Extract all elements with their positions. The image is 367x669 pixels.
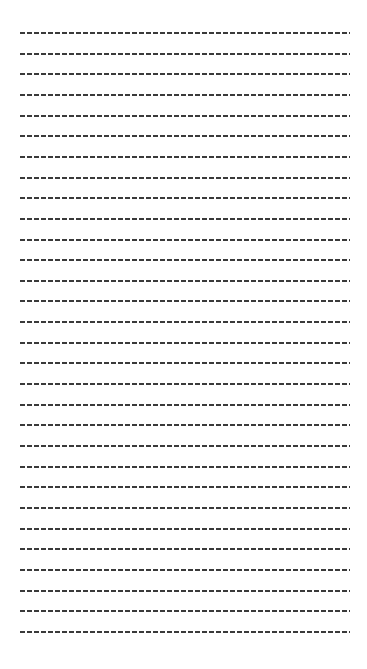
dashed-rule-line: [20, 445, 350, 447]
dashed-rule-line: [20, 177, 350, 179]
dashed-rule-line: [20, 362, 350, 364]
dashed-rule-line: [20, 73, 350, 75]
dashed-rule-line: [20, 300, 350, 302]
dashed-rule-line: [20, 590, 350, 592]
dashed-rule-line: [20, 218, 350, 220]
dashed-rule-line: [20, 548, 350, 550]
dashed-rule-line: [20, 135, 350, 137]
dashed-rule-line: [20, 424, 350, 426]
dashed-rule-line: [20, 486, 350, 488]
dashed-rule-line: [20, 528, 350, 530]
dashed-rule-line: [20, 94, 350, 96]
dashed-rule-line: [20, 239, 350, 241]
dashed-rule-line: [20, 466, 350, 468]
dashed-rule-line: [20, 631, 350, 633]
ruled-sheet: [0, 0, 367, 669]
dashed-rule-line: [20, 156, 350, 158]
dashed-rule-line: [20, 280, 350, 282]
dashed-rule-line: [20, 53, 350, 55]
dashed-rule-line: [20, 507, 350, 509]
dashed-rule-line: [20, 404, 350, 406]
dashed-rule-line: [20, 321, 350, 323]
dashed-rule-line: [20, 197, 350, 199]
dashed-rule-line: [20, 32, 350, 34]
dashed-rule-line: [20, 383, 350, 385]
dashed-rule-line: [20, 342, 350, 344]
dashed-rule-line: [20, 569, 350, 571]
dashed-rule-line: [20, 259, 350, 261]
dashed-rule-line: [20, 115, 350, 117]
dashed-rule-line: [20, 610, 350, 612]
